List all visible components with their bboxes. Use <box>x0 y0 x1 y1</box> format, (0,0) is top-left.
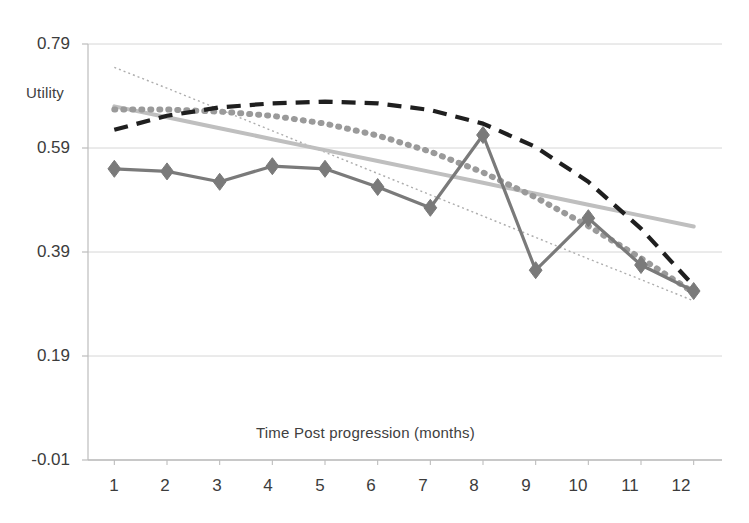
data-point-marker <box>319 160 332 177</box>
series-line-3 <box>114 110 693 293</box>
series-line-4 <box>114 106 693 226</box>
utility-line-chart: Utility Time Post progression (months) 0… <box>0 0 749 523</box>
data-point-marker <box>161 163 174 180</box>
data-point-marker <box>213 173 226 190</box>
series-layer <box>108 67 700 301</box>
data-point-marker <box>108 160 121 177</box>
data-point-marker <box>371 179 384 196</box>
data-point-marker <box>687 283 700 300</box>
series-line-1 <box>114 135 693 291</box>
series-line-2 <box>114 102 693 286</box>
plot-area <box>0 0 749 523</box>
data-point-marker <box>266 158 279 175</box>
series-line-5 <box>114 67 693 301</box>
